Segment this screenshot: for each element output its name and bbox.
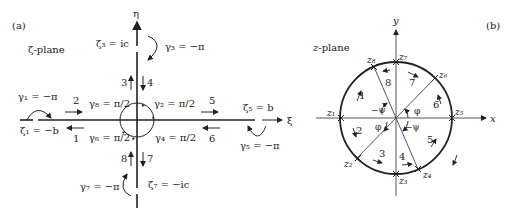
gamma3-arc [148,36,157,60]
z2-label: z₂ [343,159,353,169]
z-plane-label: z-plane [312,42,350,53]
z5-label: z₅ [454,107,464,117]
seg-3: 3 [121,77,127,88]
y-axis-label: y [392,15,399,26]
zeta3-label: ζ₃ = ic [96,38,129,49]
z7-label: z₇ [398,52,408,62]
xi-axis-label: ξ [287,115,293,126]
gamma2-label: γ₂ = π/2 [154,98,195,109]
seg-b-2: 2 [356,125,362,136]
panel-b-label: (b) [486,20,500,31]
seg-1: 1 [73,133,79,144]
seg-4: 4 [147,77,153,88]
gamma1-arc [27,110,51,120]
panel-a: (a) ζ-plane η ξ ζ₃ = ic ζ₁ = −b ζ₅ = b ζ… [12,8,293,208]
seg-b-7: 7 [409,77,415,88]
seg-b-1: 1 [359,90,365,101]
phi-right: φ [414,106,420,116]
seg-b-5: 5 [427,134,433,145]
neg-psi-left: −ψ [371,105,386,115]
neg-psi-right: −ψ [405,122,420,132]
z4-label: z₄ [422,170,432,180]
seg-b-6: 6 [433,99,439,110]
gamma1-label: γ₁ = −π [18,91,58,102]
zeta5-label: ζ₅ = b [243,102,274,113]
eta-axis-label: η [133,8,139,19]
gamma4-label: γ₄ = π/2 [155,132,196,143]
seg-7: 7 [147,153,153,164]
zeta7-label: ζ₇ = −ic [148,179,190,190]
panel-a-label: (a) [12,20,26,31]
panel-b: (b) z-plane y x z₁ z₂ z₃ z₄ z₅ z₆ z₇ [312,15,500,196]
gamma3-label: γ₃ = −π [165,41,205,52]
conformal-map-diagram: (a) ζ-plane η ξ ζ₃ = ic ζ₁ = −b ζ₅ = b ζ… [0,0,514,219]
z3-label: z₃ [398,176,408,186]
z6-label: z₆ [438,70,448,80]
seg-5: 5 [209,95,215,106]
seg-6: 6 [209,133,215,144]
seg-b-8: 8 [385,77,391,88]
gamma7-label: γ₇ = −π [80,181,120,192]
zeta1-label: ζ₁ = −b [20,125,59,136]
gamma5-label: γ₅ = −π [240,140,280,151]
x-axis-label: x [490,113,496,124]
seg-b-3: 3 [379,148,385,159]
z8-label: z₈ [366,55,376,65]
gamma5-arc [248,126,266,136]
gamma7-arc [123,174,131,196]
z1-label: z₁ [326,108,335,118]
phi-left: φ [375,122,381,132]
seg-2: 2 [73,95,79,106]
zeta-plane-label: ζ-plane [28,44,65,55]
gamma8-label: γ₈ = π/2 [89,98,130,109]
seg-8: 8 [121,153,127,164]
gamma6-label: γ₆ = π/2 [89,132,130,143]
seg-b-4: 4 [399,151,405,162]
